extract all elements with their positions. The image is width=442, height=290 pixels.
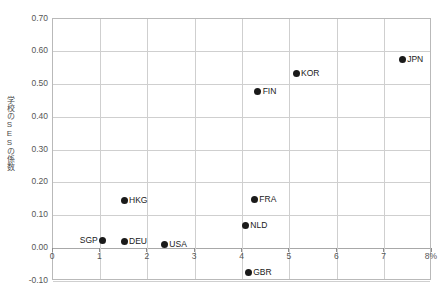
data-point-marker bbox=[245, 269, 252, 276]
data-point-label: GBR bbox=[253, 268, 271, 277]
gridline-vertical bbox=[337, 19, 338, 279]
x-axis-tick-label: 3 bbox=[179, 252, 209, 261]
x-axis-tick-label: 2 bbox=[132, 252, 162, 261]
gridline-vertical bbox=[242, 19, 243, 279]
y-axis-tick-label: 0.70 bbox=[0, 14, 48, 23]
data-point-marker bbox=[99, 237, 106, 244]
y-axis-tick-label: 0.00 bbox=[0, 243, 48, 252]
data-point-label: JPN bbox=[407, 55, 423, 64]
x-axis-tick-label: 0 bbox=[37, 252, 67, 261]
x-axis-tick-label: 4 bbox=[227, 252, 257, 261]
gridline-vertical bbox=[147, 19, 148, 279]
data-point-marker bbox=[242, 222, 249, 229]
x-axis-tick-label: 5 bbox=[274, 252, 304, 261]
data-point-marker bbox=[399, 56, 406, 63]
data-point-marker bbox=[121, 238, 128, 245]
data-point-label: DEU bbox=[129, 237, 147, 246]
gridline-vertical bbox=[384, 19, 385, 279]
data-point-label: USA bbox=[169, 240, 186, 249]
gridline-vertical bbox=[195, 19, 196, 279]
y-axis-tick-label: -0.10 bbox=[0, 276, 48, 285]
y-axis-tick-label: 0.60 bbox=[0, 46, 48, 55]
y-axis-tick-label: 0.30 bbox=[0, 145, 48, 154]
data-point-marker bbox=[254, 88, 261, 95]
y-axis-title: 学校のSESの係数 bbox=[2, 96, 14, 171]
y-axis-tick-label: 0.50 bbox=[0, 79, 48, 88]
data-point-label: HKG bbox=[129, 196, 147, 205]
y-axis-tick-label: 0.20 bbox=[0, 177, 48, 186]
data-point-marker bbox=[293, 70, 300, 77]
plot-area: SGPDEUHKGUSANLDGBRFRAFINKORJPN bbox=[52, 18, 431, 280]
data-point-marker bbox=[121, 197, 128, 204]
data-point-label: NLD bbox=[250, 221, 267, 230]
data-point-label: FIN bbox=[263, 87, 277, 96]
data-point-label: SGP bbox=[80, 236, 98, 245]
y-axis-tick-label: 0.10 bbox=[0, 210, 48, 219]
data-point-marker bbox=[251, 196, 258, 203]
gridline-vertical bbox=[289, 19, 290, 279]
x-axis-tick-label: 8% bbox=[416, 252, 442, 261]
x-axis-tick-label: 1 bbox=[84, 252, 114, 261]
data-point-label: FRA bbox=[259, 195, 276, 204]
y-axis-tick-label: 0.40 bbox=[0, 112, 48, 121]
gridline-horizontal bbox=[53, 281, 430, 282]
x-axis-tick-label: 7 bbox=[369, 252, 399, 261]
x-axis-tick-label: 6 bbox=[321, 252, 351, 261]
data-point-label: KOR bbox=[301, 69, 319, 78]
